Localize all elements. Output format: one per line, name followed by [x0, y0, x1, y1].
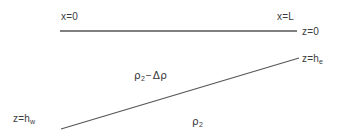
label-density-upper-rho: ρ: [134, 69, 141, 81]
interface-line: [61, 58, 299, 129]
label-z-east: z=he: [302, 54, 323, 65]
label-x-origin: x=0: [61, 12, 78, 22]
stratified-fluid-diagram: x=0 x=L z=0 z=he z=hw ρ2−Δρ ρ2: [0, 0, 347, 140]
label-density-upper-delta: Δρ: [153, 69, 167, 81]
label-density-upper-operator: −: [145, 70, 153, 81]
label-x-length: x=L: [277, 12, 294, 22]
label-z-east-subscript: e: [319, 58, 323, 65]
label-density-upper: ρ2−Δρ: [134, 70, 167, 82]
label-z-west-subscript: w: [30, 118, 35, 125]
label-z-origin: z=0: [302, 27, 319, 37]
label-z-west: z=hw: [13, 114, 35, 125]
label-density-lower-rho: ρ: [192, 115, 199, 127]
label-density-lower: ρ2: [192, 116, 203, 128]
label-z-west-base: z=h: [13, 113, 30, 124]
diagram-canvas: [0, 0, 347, 140]
label-z-east-base: z=h: [302, 53, 319, 64]
label-density-lower-subscript: 2: [199, 121, 203, 128]
